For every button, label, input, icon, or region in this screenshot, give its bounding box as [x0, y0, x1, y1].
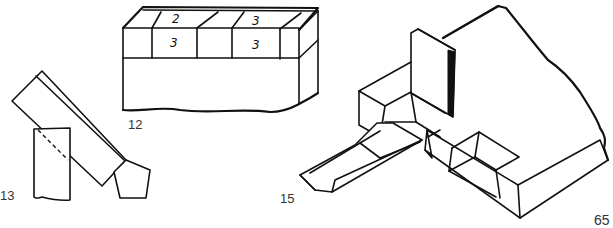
illustration-page: 2 3 3 3 12 13 15 65	[0, 0, 613, 228]
cell-mark-top-right: 3	[252, 14, 260, 28]
figure-label-15: 15	[280, 191, 294, 206]
figure-15-drawing	[300, 6, 608, 218]
page-number: 65	[594, 212, 610, 228]
figure-label-13: 13	[0, 188, 14, 203]
cell-mark-front-right: 3	[252, 38, 260, 52]
line-drawings	[0, 0, 613, 228]
figure-13-drawing	[12, 71, 150, 200]
cell-mark-top-left: 2	[172, 12, 180, 26]
cell-mark-front-left: 3	[170, 36, 178, 50]
figure-label-12: 12	[128, 117, 142, 132]
figure-12-drawing	[123, 7, 318, 112]
